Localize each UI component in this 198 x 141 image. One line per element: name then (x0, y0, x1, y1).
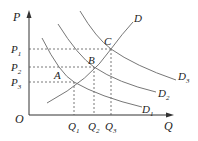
guide-lines (29, 49, 111, 115)
p2-label: P2 (10, 61, 22, 76)
demand-curve-d3 (80, 11, 176, 80)
p3-label: P3 (10, 76, 22, 91)
point-c-label: C (104, 35, 112, 47)
x-axis-label: Q (164, 119, 173, 133)
supply-curve-label: D (133, 12, 142, 24)
d2-label: D2 (157, 87, 170, 102)
q2-label: Q2 (88, 120, 100, 135)
y-axis-label: P (12, 10, 21, 24)
point-b-label: B (88, 54, 95, 66)
p1-label: P1 (10, 43, 21, 58)
x-axis-arrow-icon (166, 113, 174, 118)
d3-label: D3 (177, 70, 190, 85)
point-a-label: A (53, 69, 61, 81)
origin-label: O (15, 112, 24, 126)
axes (29, 14, 170, 115)
demand-curves (42, 11, 176, 107)
q3-label: Q3 (105, 120, 117, 135)
y-axis-arrow-icon (27, 10, 32, 18)
q1-label: Q1 (68, 120, 79, 135)
supply-demand-diagram: P Q O P1 P2 P3 Q1 Q2 Q3 A B C D D1 D2 D3 (0, 0, 198, 141)
d1-label: D1 (141, 103, 153, 118)
